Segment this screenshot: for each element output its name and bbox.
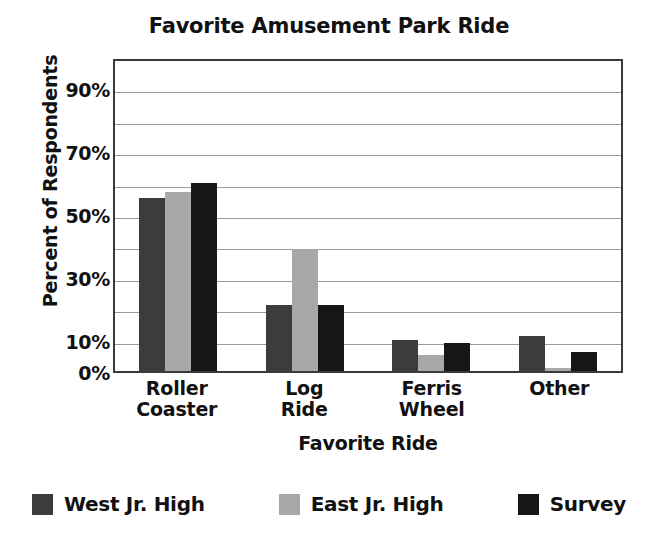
bar [545,368,571,371]
legend-label: West Jr. High [64,492,205,516]
bar-group [495,61,622,371]
legend-item: West Jr. High [32,492,205,516]
bar [139,198,165,371]
bar [266,305,292,371]
bar [292,249,318,371]
chart-legend: West Jr. HighEast Jr. HighSurvey [22,492,636,516]
legend-swatch-icon [279,494,300,515]
y-axis-tick-labels: 0%10%30%50%70%90% [52,59,110,373]
x-axis-tick-labels: RollerCoasterLogRideFerrisWheelOther [113,378,623,421]
x-axis-title: Favorite Ride [113,432,623,454]
x-tick-label: FerrisWheel [368,378,496,421]
x-tick-label: RollerCoaster [113,378,241,421]
x-tick-label: Other [496,378,624,421]
bar [418,355,444,371]
bars-layer [115,61,621,371]
bar [392,340,418,371]
legend-label: Survey [550,492,626,516]
legend-swatch-icon [32,494,53,515]
bar [519,336,545,371]
bar-group [368,61,495,371]
legend-swatch-icon [518,494,539,515]
bar [571,352,597,371]
y-tick-label: 30% [52,268,110,290]
chart-title: Favorite Amusement Park Ride [0,14,658,38]
bar [165,192,191,371]
legend-item: Survey [518,492,626,516]
y-tick-label: 0% [52,362,110,384]
legend-label: East Jr. High [311,492,444,516]
bar [191,183,217,371]
bar-group [115,61,242,371]
y-tick-label: 50% [52,205,110,227]
legend-item: East Jr. High [279,492,444,516]
y-tick-label: 70% [52,142,110,164]
bar [444,343,470,371]
plot-area [113,59,623,373]
y-tick-label: 90% [52,79,110,101]
bar [318,305,344,371]
bar-group [242,61,369,371]
x-tick-label: LogRide [241,378,369,421]
bar-chart: Favorite Amusement Park Ride Percent of … [0,0,658,542]
y-tick-label: 10% [52,331,110,353]
